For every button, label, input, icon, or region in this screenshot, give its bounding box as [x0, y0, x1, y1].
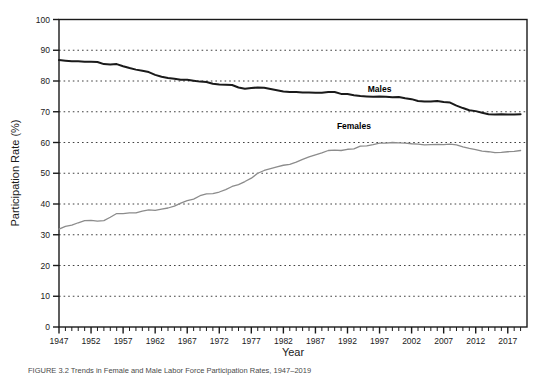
ytick-label-90: 90	[41, 45, 51, 55]
xtick-label-2007: 2007	[434, 336, 453, 346]
ytick-label-30: 30	[41, 230, 51, 240]
series-line-females	[59, 143, 521, 230]
series-annotations-group: MalesFemales	[337, 84, 392, 131]
series-line-males	[59, 60, 521, 114]
ytick-label-60: 60	[41, 138, 51, 148]
xtick-label-1947: 1947	[50, 336, 69, 346]
ytick-label-40: 40	[41, 199, 51, 209]
xtick-label-2002: 2002	[402, 336, 421, 346]
y-axis-title: Participation Rate (%)	[9, 120, 21, 227]
figure-container: 0102030405060708090100 19471952195719621…	[0, 0, 552, 380]
ytick-label-100: 100	[36, 15, 50, 25]
xtick-label-1982: 1982	[274, 336, 293, 346]
participation-rate-line-chart: 0102030405060708090100 19471952195719621…	[0, 0, 552, 380]
xtick-label-1962: 1962	[146, 336, 165, 346]
xtick-label-1957: 1957	[114, 336, 133, 346]
ytick-label-20: 20	[41, 261, 51, 271]
xtick-label-1967: 1967	[178, 336, 197, 346]
ytick-label-0: 0	[45, 322, 50, 332]
xtick-label-1992: 1992	[338, 336, 357, 346]
xtick-label-2012: 2012	[466, 336, 485, 346]
ytick-label-70: 70	[41, 107, 51, 117]
figure-caption: FIGURE 3.2 Trends in Female and Male Lab…	[28, 366, 548, 376]
males-label: Males	[368, 84, 392, 94]
ytick-label-50: 50	[41, 168, 51, 178]
x-axis-ticks-group: 1947195219571962196719721977198219871992…	[50, 327, 521, 346]
xtick-label-1972: 1972	[210, 336, 229, 346]
females-label: Females	[337, 121, 371, 131]
xtick-label-1997: 1997	[370, 336, 389, 346]
xtick-label-2017: 2017	[498, 336, 517, 346]
xtick-label-1987: 1987	[306, 336, 325, 346]
ytick-label-80: 80	[41, 76, 51, 86]
gridlines-group	[59, 50, 527, 296]
xtick-label-1977: 1977	[242, 336, 261, 346]
ytick-label-10: 10	[41, 291, 51, 301]
y-axis-ticks-group: 0102030405060708090100	[36, 15, 59, 333]
xtick-label-1952: 1952	[82, 336, 101, 346]
x-axis-title: Year	[282, 346, 305, 358]
